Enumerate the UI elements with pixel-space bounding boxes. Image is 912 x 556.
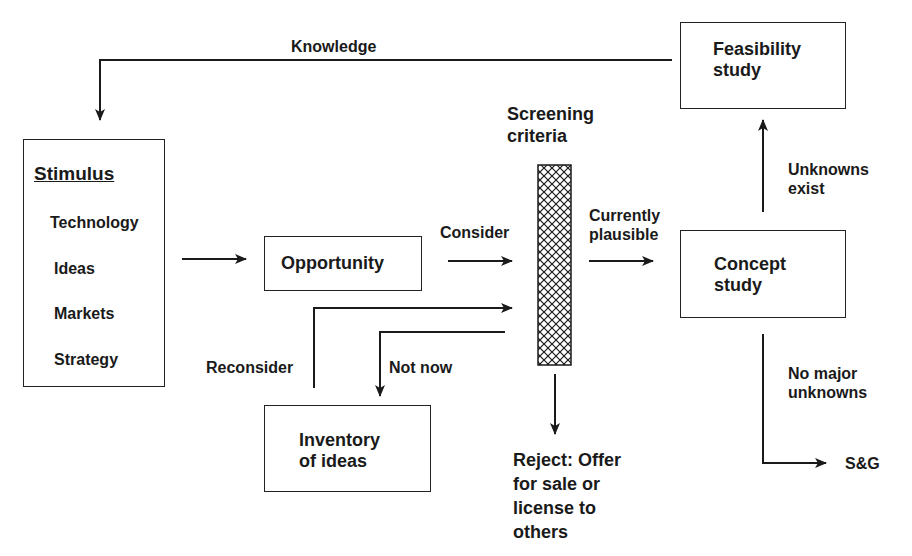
no-major-unknowns-label: No major unknowns [788, 364, 867, 402]
concept-study-label: Concept study [714, 254, 786, 296]
knowledge-label: Knowledge [291, 37, 376, 56]
feasibility-study-label: Feasibility study [713, 39, 801, 81]
stimulus-item-markets: Markets [54, 304, 114, 323]
concept-study-box: Concept study [680, 230, 846, 318]
feasibility-study-box: Feasibility study [680, 22, 846, 109]
stimulus-item-ideas: Ideas [54, 259, 95, 278]
screening-criteria-label: Screening criteria [507, 103, 594, 147]
stimulus-item-strategy: Strategy [54, 350, 118, 369]
stimulus-title: Stimulus [34, 163, 114, 184]
consider-label: Consider [440, 223, 509, 242]
opportunity-label: Opportunity [281, 253, 384, 274]
not-now-label: Not now [389, 358, 452, 377]
stimulus-item-technology: Technology [50, 213, 139, 232]
opportunity-box: Opportunity [264, 236, 422, 291]
unknowns-exist-label: Unknowns exist [788, 160, 869, 198]
sg-label: S&G [845, 454, 880, 473]
currently-plausible-label: Currently plausible [589, 206, 660, 244]
inventory-of-ideas-label: Inventory of ideas [299, 430, 380, 472]
stimulus-box: Stimulus Technology Ideas Markets Strate… [23, 139, 165, 387]
reconsider-label: Reconsider [206, 358, 293, 377]
inventory-of-ideas-box: Inventory of ideas [264, 405, 431, 492]
reject-label: Reject: Offer for sale or license to oth… [513, 448, 621, 544]
screening-criteria-bar [538, 165, 571, 365]
